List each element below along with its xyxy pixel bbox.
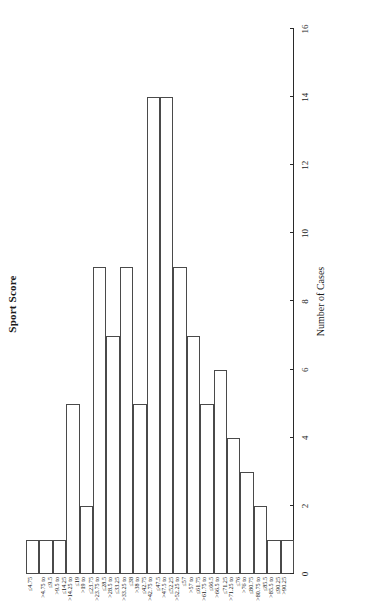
value-tick xyxy=(290,369,294,370)
category-label-line: >61.75 to xyxy=(200,577,207,608)
value-tick xyxy=(290,96,294,97)
category-label-line: >33.25 to xyxy=(120,577,127,608)
category-label-line: >19 to xyxy=(79,577,86,608)
category-label-line: >28.5 to xyxy=(106,577,113,608)
value-tick xyxy=(290,301,294,302)
value-tick-label: 14 xyxy=(300,84,310,110)
value-tick-label: 10 xyxy=(300,220,310,246)
category-label-line: >4.75 to xyxy=(39,577,46,608)
category-label-line: >71.25 to xyxy=(227,577,234,608)
histogram-bar[interactable] xyxy=(93,267,106,574)
category-label: >57 to≤61.75 xyxy=(187,577,201,608)
histogram-bar[interactable] xyxy=(39,540,52,574)
category-label: >47.5 to≤52.25 xyxy=(160,577,174,608)
category-label: >14.25 to≤19 xyxy=(66,577,80,608)
category-label: >52.25 to≤57 xyxy=(173,577,187,608)
value-tick xyxy=(290,437,294,438)
histogram-bar[interactable] xyxy=(227,438,240,574)
category-label: >38 to≤42.75 xyxy=(133,577,147,608)
category-label-line: >14.25 to xyxy=(66,577,73,608)
rotated-figure-wrapper: Sport Score Number of Cases 024681012141… xyxy=(0,0,366,608)
category-label: ≤4.75 xyxy=(26,577,33,608)
value-tick xyxy=(290,232,294,233)
category-label-line: >90.25 xyxy=(280,577,287,608)
histogram-bar[interactable] xyxy=(281,540,294,574)
value-tick-label: 6 xyxy=(300,357,310,383)
category-label: >85.5 to≤90.25 xyxy=(267,577,281,608)
category-label: >42.75 to≤47.5 xyxy=(146,577,160,608)
histogram-bar[interactable] xyxy=(26,540,39,574)
category-label-line: >80.75 to xyxy=(254,577,261,608)
histogram-bar[interactable] xyxy=(133,404,146,574)
category-label: >23.75 to≤28.5 xyxy=(93,577,107,608)
histogram-bar[interactable] xyxy=(147,97,160,574)
category-label-line: >85.5 to xyxy=(267,577,274,608)
value-tick-label: 0 xyxy=(300,561,310,587)
value-tick-label: 8 xyxy=(300,289,310,315)
category-label: >76 to≤80.75 xyxy=(240,577,254,608)
category-label-line: >23.75 to xyxy=(93,577,100,608)
value-tick xyxy=(290,573,294,574)
histogram-bar[interactable] xyxy=(254,506,267,574)
value-tick xyxy=(290,164,294,165)
histogram-bar[interactable] xyxy=(120,267,133,574)
category-label-line: >66.5 to xyxy=(213,577,220,608)
histogram-bar[interactable] xyxy=(53,540,66,574)
histogram-bar[interactable] xyxy=(66,404,79,574)
category-label: >19 to≤23.75 xyxy=(79,577,93,608)
category-label: >71.25 to≤76 xyxy=(227,577,241,608)
histogram-bar[interactable] xyxy=(187,336,200,574)
category-label-line: >47.5 to xyxy=(160,577,167,608)
category-label-line: ≤4.75 xyxy=(26,577,33,608)
histogram-bar[interactable] xyxy=(160,97,173,574)
category-label: >61.75 to≤66.5 xyxy=(200,577,214,608)
plot-area: Number of Cases 0246810121416 ≤4.75>4.75… xyxy=(26,29,294,574)
value-axis-line xyxy=(293,29,294,574)
value-tick-label: 16 xyxy=(300,16,310,42)
histogram-bar[interactable] xyxy=(214,370,227,574)
category-label: >33.25 to≤38 xyxy=(120,577,134,608)
histogram-bar[interactable] xyxy=(240,472,253,574)
category-label-line: >9.5 to xyxy=(53,577,60,608)
category-label-line: >76 to xyxy=(240,577,247,608)
histogram-bar[interactable] xyxy=(200,404,213,574)
category-label: >9.5 to≤14.25 xyxy=(53,577,67,608)
category-label-line: >38 to xyxy=(133,577,140,608)
category-label-line: >52.25 to xyxy=(173,577,180,608)
category-label: >66.5 to≤71.25 xyxy=(213,577,227,608)
value-tick-label: 12 xyxy=(300,152,310,178)
value-tick xyxy=(290,505,294,506)
category-label: >4.75 to≤9.5 xyxy=(39,577,53,608)
value-tick xyxy=(290,28,294,29)
category-label: >28.5 to≤33.25 xyxy=(106,577,120,608)
category-label-line: >42.75 to xyxy=(146,577,153,608)
value-tick-label: 2 xyxy=(300,493,310,519)
histogram-bar[interactable] xyxy=(106,336,119,574)
value-axis-title: Number of Cases xyxy=(315,29,326,574)
histogram-bar[interactable] xyxy=(173,267,186,574)
category-label: >80.75 to≤85.5 xyxy=(254,577,268,608)
category-label: >90.25 xyxy=(280,577,287,608)
histogram-figure: Sport Score Number of Cases 024681012141… xyxy=(0,0,366,608)
histogram-bar[interactable] xyxy=(80,506,93,574)
histogram-bar[interactable] xyxy=(267,540,280,574)
chart-title: Sport Score xyxy=(6,0,18,608)
value-tick-label: 4 xyxy=(300,425,310,451)
category-label-line: >57 to xyxy=(187,577,194,608)
